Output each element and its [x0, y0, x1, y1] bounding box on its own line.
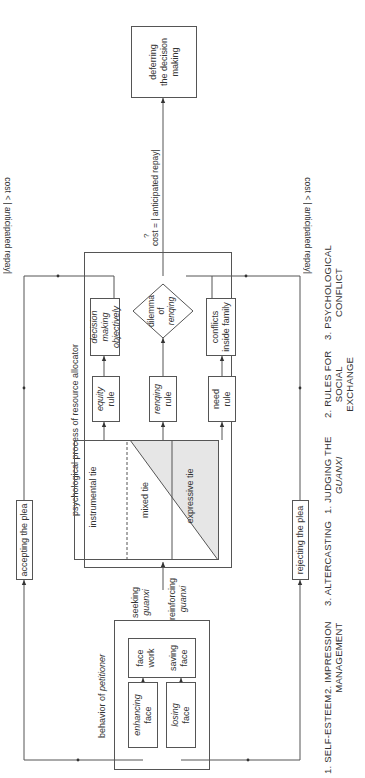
cost-less-bottom-label: cost < | anticipated repay| — [302, 177, 313, 274]
ties-dividers — [0, 0, 365, 778]
decision-objectively-box: decision making objectively — [90, 298, 120, 356]
mixed-tie-label: mixed tie — [140, 480, 151, 520]
conflicts-family-box: conflicts inside family — [206, 298, 236, 356]
renqing-rule-box: renqingrule — [149, 376, 177, 422]
deferring-decision-box: deferring the decision making — [131, 26, 197, 98]
dilemma-label: dilemma of renqing — [146, 291, 176, 331]
instrumental-tie-label: instrumental tie — [88, 462, 99, 532]
label-impression-management: 2. IMPRESSIONMANAGEMENT — [322, 621, 344, 694]
rotated-diagram: behavior of petitioner enhancingface los… — [0, 0, 365, 778]
need-rule-box: need rule — [208, 376, 236, 422]
label-judging-guanxi: 1. JUDGING THEGUANXI — [322, 436, 344, 514]
expressive-tie-label: expressive tie — [185, 466, 196, 526]
cost-equal-label: cost = | anticipated repay| — [150, 149, 161, 246]
label-altercasting: 3. ALTERCASTING — [322, 521, 333, 606]
label-rules-social-exchange: 2. RULES FORSOCIALEXCHANGE — [322, 351, 355, 418]
equity-rule-box: equityrule — [92, 376, 120, 422]
cost-less-top-label: cost < | anticipated repay| — [2, 177, 13, 274]
label-self-esteem: 1. SELF-ESTEEM — [322, 695, 333, 774]
label-psychological-conflict: 3. PSYCHOLOGICALCONFLICT — [322, 245, 344, 340]
